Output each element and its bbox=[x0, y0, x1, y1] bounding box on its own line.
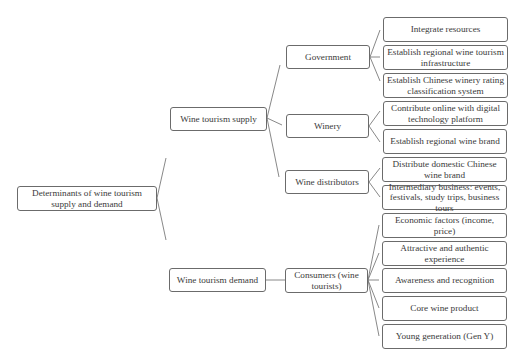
consumers-label: Consumers (wine tourists) bbox=[288, 270, 365, 291]
government-label: Government bbox=[305, 52, 351, 63]
item-young-generation: Young generation (Gen Y) bbox=[382, 324, 507, 349]
item-winery-rating: Establish Chinese winery rating classifi… bbox=[383, 73, 508, 98]
winery-label: Winery bbox=[314, 121, 341, 132]
item-intermediary-business: Intermediary business: events, festivals… bbox=[382, 185, 507, 210]
item-distribute-domestic: Distribute domestic Chinese wine brand bbox=[382, 157, 507, 182]
item-label: Economic factors (income, price) bbox=[385, 215, 504, 236]
item-label: Young generation (Gen Y) bbox=[396, 331, 493, 342]
item-economic-factors: Economic factors (income, price) bbox=[382, 213, 507, 238]
winery-node: Winery bbox=[286, 114, 369, 138]
item-label: Establish Chinese winery rating classifi… bbox=[386, 75, 505, 96]
item-regional-infrastructure: Establish regional wine tourism infrastr… bbox=[383, 45, 508, 70]
supply-label: Wine tourism supply bbox=[180, 114, 257, 125]
root-node: Determinants of wine tourism supply and … bbox=[17, 186, 157, 211]
demand-label: Wine tourism demand bbox=[177, 275, 258, 286]
demand-node: Wine tourism demand bbox=[169, 268, 266, 292]
item-integrate-resources: Integrate resources bbox=[383, 17, 508, 42]
item-label: Establish regional wine brand bbox=[390, 136, 499, 147]
item-regional-brand: Establish regional wine brand bbox=[383, 129, 507, 154]
item-label: Distribute domestic Chinese wine brand bbox=[385, 159, 504, 180]
wine-distributors-label: Wine distributors bbox=[295, 177, 359, 188]
government-node: Government bbox=[286, 45, 370, 69]
item-label: Awareness and recognition bbox=[395, 275, 494, 286]
item-label: Contribute online with digital technolog… bbox=[386, 103, 505, 124]
item-label: Integrate resources bbox=[411, 24, 481, 35]
item-core-wine-product: Core wine product bbox=[382, 296, 507, 321]
item-awareness: Awareness and recognition bbox=[382, 268, 507, 293]
item-label: Core wine product bbox=[410, 303, 478, 314]
item-label: Establish regional wine tourism infrastr… bbox=[386, 47, 505, 68]
item-label: Attractive and authentic experience bbox=[385, 243, 504, 264]
item-digital-platform: Contribute online with digital technolog… bbox=[383, 101, 508, 126]
root-label: Determinants of wine tourism supply and … bbox=[20, 188, 154, 209]
supply-node: Wine tourism supply bbox=[170, 107, 267, 131]
wine-distributors-node: Wine distributors bbox=[285, 170, 369, 194]
consumers-node: Consumers (wine tourists) bbox=[285, 268, 368, 293]
item-attractive-experience: Attractive and authentic experience bbox=[382, 241, 507, 266]
item-label: Intermediary business: events, festivals… bbox=[385, 182, 504, 214]
